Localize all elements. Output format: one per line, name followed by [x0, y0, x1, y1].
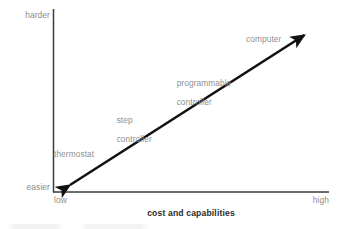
x-axis-tick-low: low — [54, 196, 67, 205]
page-edge-artifact — [0, 224, 349, 229]
annotation-step-controller: step controller — [107, 107, 152, 153]
annotation-computer: computer — [246, 35, 281, 44]
annotation-thermostat: thermostat — [54, 150, 94, 159]
annotation-programmable-controller-line2: controller — [177, 97, 212, 107]
annotation-step-controller-line2: controller — [117, 134, 152, 144]
annotation-programmable-controller: programmable controller — [167, 70, 231, 116]
chart-figure: harder easier low high ease of use cost … — [0, 0, 349, 229]
x-axis-tick-high: high — [289, 196, 329, 205]
y-axis-tick-easier: easier — [10, 183, 50, 192]
annotation-programmable-controller-line1: programmable — [177, 78, 232, 88]
y-axis-tick-harder: harder — [10, 11, 50, 20]
annotation-step-controller-line1: step — [117, 115, 133, 125]
x-axis-title: cost and capabilities — [53, 209, 329, 219]
